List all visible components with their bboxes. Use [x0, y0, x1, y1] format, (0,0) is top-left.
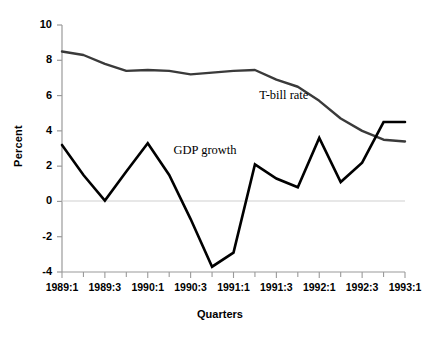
series-label-gdp-growth: GDP growth — [174, 143, 237, 158]
x-tick-label: 1993:1 — [379, 281, 431, 293]
y-tick-label: 2 — [18, 159, 52, 171]
y-tick-label: 8 — [18, 53, 52, 65]
y-axis-ticks — [57, 25, 62, 272]
y-tick-label: 0 — [18, 194, 52, 206]
y-tick-label: 10 — [18, 18, 52, 30]
y-tick-label: 4 — [18, 124, 52, 136]
series-line-t-bill-rate — [62, 51, 405, 141]
x-axis-ticks — [62, 272, 405, 278]
series-label-t-bill-rate: T-bill rate — [259, 88, 308, 103]
x-axis-title: Quarters — [0, 308, 440, 320]
series-layer — [62, 51, 405, 266]
y-tick-label: 6 — [18, 89, 52, 101]
y-tick-label: -4 — [18, 265, 52, 277]
y-axis-title: Percent — [12, 106, 24, 186]
y-tick-label: -2 — [18, 230, 52, 242]
